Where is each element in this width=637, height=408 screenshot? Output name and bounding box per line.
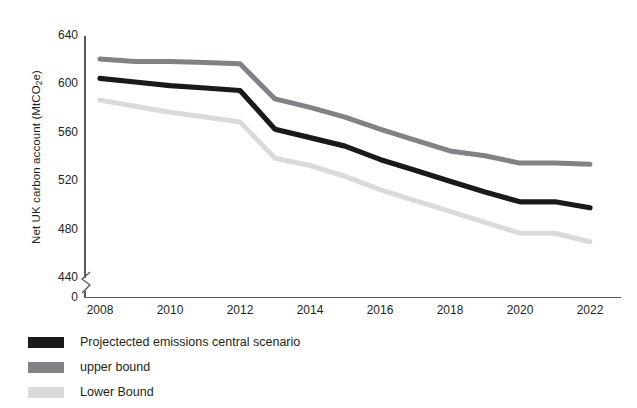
y-axis-tick-label: 520 [2, 173, 78, 187]
y-axis-tick-label: 0 [2, 290, 78, 304]
y-axis-tick-label: 440 [2, 270, 78, 284]
chart-figure: Net UK carbon account (MtCO2e) 640600560… [0, 0, 637, 408]
x-axis-line [84, 297, 621, 298]
legend-label: Projectected emissions central scenario [80, 335, 300, 349]
y-axis-tick-label: 640 [2, 28, 78, 42]
legend-swatch [28, 362, 64, 373]
chart-legend: Projectected emissions central scenariou… [28, 331, 458, 406]
legend-label: Lower Bound [80, 385, 154, 399]
x-axis-tick-label: 2018 [420, 303, 480, 317]
series-line [100, 59, 590, 164]
x-axis-tick-label: 2014 [280, 303, 340, 317]
x-axis-tick-label: 2022 [560, 303, 620, 317]
y-axis-break-icon [76, 270, 96, 296]
x-axis-tick-label: 2012 [210, 303, 270, 317]
y-axis-tick-label: 560 [2, 125, 78, 139]
x-axis-tick-label: 2020 [490, 303, 550, 317]
x-axis-tick-label: 2008 [70, 303, 130, 317]
x-axis-tick-label: 2010 [140, 303, 200, 317]
y-axis-tick-label: 600 [2, 76, 78, 90]
legend-item[interactable]: Lower Bound [28, 381, 458, 403]
legend-label: upper bound [80, 360, 150, 374]
y-axis-tick-label: 480 [2, 222, 78, 236]
legend-item[interactable]: Projectected emissions central scenario [28, 331, 458, 353]
series-line [100, 78, 590, 208]
x-axis-tick-label: 2016 [350, 303, 410, 317]
legend-swatch [28, 337, 64, 348]
series-line [100, 100, 590, 242]
y-axis-line [84, 36, 86, 278]
legend-item[interactable]: upper bound [28, 356, 458, 378]
legend-swatch [28, 387, 64, 398]
